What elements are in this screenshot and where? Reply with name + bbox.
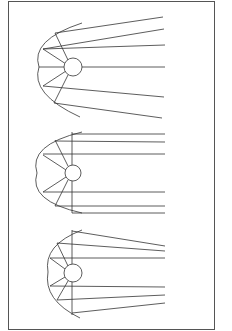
light-source-circle [65, 165, 81, 181]
light-source-circle [64, 264, 82, 282]
reflected-ray [55, 141, 165, 142]
parallel-reflector [36, 132, 165, 213]
incident-ray [50, 258, 65, 269]
reflected-ray [72, 231, 165, 246]
reflected-ray [55, 17, 163, 33]
reflected-ray [57, 295, 165, 300]
reflected-ray [72, 303, 165, 313]
incident-ray [43, 155, 66, 170]
reflector-diagrams [0, 0, 232, 331]
incident-ray [43, 49, 66, 64]
incident-ray [57, 243, 68, 266]
reflected-ray [50, 286, 165, 287]
incident-ray [57, 281, 68, 300]
incident-ray [54, 75, 68, 103]
incident-ray [43, 177, 66, 192]
incident-ray [43, 71, 66, 86]
reflected-ray [43, 86, 164, 97]
incident-ray [50, 277, 65, 286]
incident-ray [55, 140, 68, 166]
diverging-reflector [38, 17, 165, 118]
converging-reflector [47, 230, 165, 318]
reflected-ray [54, 103, 162, 118]
reflected-ray [57, 243, 165, 251]
light-source-circle [64, 58, 82, 76]
incident-ray [55, 180, 68, 206]
